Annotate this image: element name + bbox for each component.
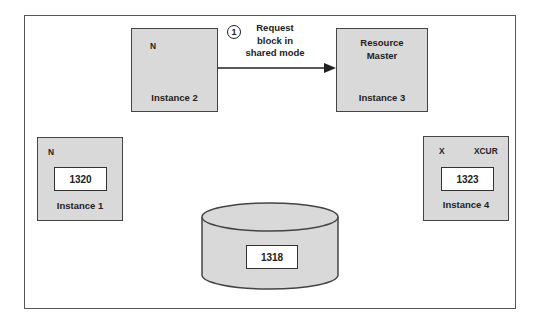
- instance-1-label: Instance 1: [38, 200, 122, 211]
- request-note: Request block in shared mode: [240, 22, 310, 60]
- instance-3-box: Resource Master Instance 3: [336, 28, 428, 112]
- step-1-icon: 1: [227, 25, 241, 39]
- resource-label: Resource: [337, 37, 427, 48]
- disk-block: 1318: [246, 245, 298, 269]
- instance-4-label: Instance 4: [424, 199, 508, 210]
- request-arrow: [218, 62, 338, 74]
- master-label: Master: [337, 50, 427, 61]
- instance-2-box: N Instance 2: [131, 28, 218, 112]
- request-line-3: shared mode: [240, 47, 310, 60]
- instance-2-label: Instance 2: [132, 92, 217, 103]
- instance-4-box: X XCUR 1323 Instance 4: [423, 136, 509, 221]
- instance-3-label: Instance 3: [337, 92, 427, 103]
- instance-1-mode: N: [48, 146, 54, 157]
- request-line-2: block in: [240, 35, 310, 48]
- instance-4-block: 1323: [441, 167, 494, 191]
- request-line-1: Request: [240, 22, 310, 35]
- instance-2-mode: N: [150, 40, 156, 51]
- instance-4-mode: X: [439, 145, 445, 156]
- instance-1-box: N 1320 Instance 1: [37, 137, 123, 221]
- instance-1-block: 1320: [54, 167, 107, 191]
- instance-4-state: XCUR: [474, 145, 498, 156]
